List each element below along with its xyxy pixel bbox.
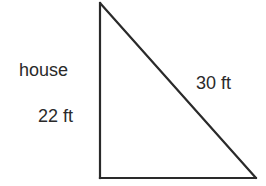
hypotenuse-ladder [100, 3, 256, 178]
triangle-figure [0, 0, 266, 186]
hypotenuse-length-label: 30 ft [196, 74, 231, 92]
right-triangle-diagram: house 22 ft 30 ft [0, 0, 266, 186]
house-label: house [19, 61, 68, 79]
vertical-length-label: 22 ft [38, 107, 73, 125]
